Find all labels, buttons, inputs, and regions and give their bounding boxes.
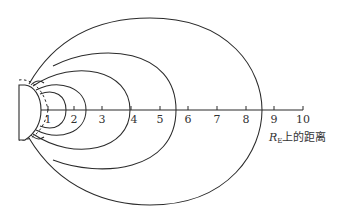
axis-title-suffix: 上的距离 — [282, 130, 326, 144]
tick-label-6: 6 — [185, 113, 192, 126]
tick-label-10: 10 — [296, 113, 310, 126]
tick-label-5: 5 — [157, 113, 164, 126]
tick-label-7: 7 — [214, 113, 221, 126]
field-line-5 — [29, 18, 262, 205]
tick-label-9: 9 — [271, 113, 278, 126]
tick-label-3: 3 — [99, 113, 106, 126]
axis-title-r: R — [268, 131, 277, 144]
axis-title: RE上的距离 — [268, 130, 326, 145]
magnetic-field-diagram: 1 2 3 4 5 6 7 8 9 10 RE上的距离 — [0, 0, 337, 213]
tick-label-4: 4 — [131, 113, 138, 126]
field-lines — [29, 18, 262, 205]
tick-label-1: 1 — [45, 113, 52, 126]
field-line-4 — [53, 53, 176, 169]
tick-label-8: 8 — [243, 113, 250, 126]
tick-label-2: 2 — [71, 113, 78, 126]
earth-hemisphere — [19, 85, 41, 140]
distance-axis: 1 2 3 4 5 6 7 8 9 10 RE上的距离 — [19, 106, 326, 145]
